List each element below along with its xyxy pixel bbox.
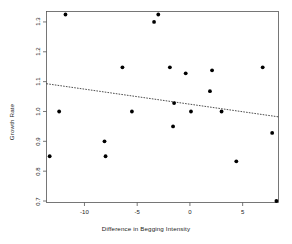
data-point [220, 110, 224, 114]
x-tick-label: -5 [125, 208, 149, 217]
y-tick-label: 1.3 [34, 11, 43, 33]
x-axis-title: Difference in Begging Intensity [0, 225, 292, 232]
x-tick-label: 0 [178, 208, 202, 217]
y-tick-label: 1.0 [34, 100, 43, 122]
data-point [171, 124, 175, 128]
y-tick-label: 1.1 [34, 71, 43, 93]
trend-line [47, 84, 279, 117]
axis-tick-marks [43, 22, 243, 206]
plot-border [47, 12, 279, 203]
regression-line [47, 84, 279, 117]
data-point [121, 65, 125, 69]
data-point [270, 131, 274, 135]
data-points [48, 13, 279, 203]
data-point [64, 13, 68, 17]
y-tick-label: 1.2 [34, 41, 43, 63]
data-point [130, 110, 134, 114]
data-point [208, 89, 212, 93]
data-point [189, 110, 193, 114]
data-point [172, 101, 176, 105]
data-point [274, 199, 278, 203]
data-point [104, 154, 108, 158]
scatter-plot-figure: Difference in Begging Intensity Growth R… [0, 0, 292, 244]
data-point [103, 139, 107, 143]
y-tick-label: 0.8 [34, 160, 43, 182]
data-point [156, 13, 160, 17]
x-tick-label: 5 [231, 208, 255, 217]
y-axis-title: Growth Rate [6, 0, 18, 244]
data-point [210, 68, 214, 72]
plot-frame [47, 12, 279, 203]
data-point [48, 154, 52, 158]
x-tick-label: -10 [72, 208, 96, 217]
data-point [184, 71, 188, 75]
data-point [152, 20, 156, 24]
data-point [168, 65, 172, 69]
y-tick-label: 0.9 [34, 130, 43, 152]
data-point [57, 110, 61, 114]
data-point [261, 65, 265, 69]
y-tick-label: 0.7 [34, 190, 43, 212]
data-point [234, 159, 238, 163]
